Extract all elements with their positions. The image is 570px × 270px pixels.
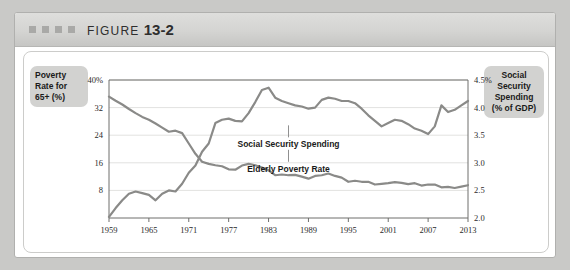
header-square-icon [42, 26, 49, 33]
secondary-y-axis-labels: 2.02.53.03.54.04.5% [474, 75, 492, 223]
x-tick-label: 2001 [380, 225, 397, 235]
y2-tick-label: 2.0 [474, 213, 485, 223]
x-tick-label: 1965 [140, 225, 157, 235]
x-tick-label: 1995 [340, 225, 357, 235]
figure-header: FIGURE 13-2 [15, 13, 555, 47]
y-tick-label: 32 [95, 103, 104, 113]
plot-area: 816243240% 2.02.53.03.54.04.5% 195919651… [24, 52, 550, 254]
y-tick-label: 8 [99, 185, 103, 195]
figure-number: 13-2 [144, 21, 174, 38]
y-tick-label: 16 [95, 158, 104, 168]
x-tick-label: 2013 [460, 225, 477, 235]
x-axis-ticks [109, 218, 468, 222]
x-tick-label: 1989 [300, 225, 317, 235]
chart-panel: Poverty Rate for 65+ (%) Social Security… [23, 51, 549, 253]
y2-tick-label: 2.5 [474, 185, 485, 195]
y-axis-labels: 816243240% [87, 75, 103, 195]
y-tick-label: 40% [87, 75, 103, 85]
header-square-icon [55, 26, 62, 33]
y-tick-label: 24 [95, 130, 104, 140]
x-tick-label: 1977 [220, 225, 237, 235]
figure-card: FIGURE 13-2 Poverty Rate for 65+ (%) Soc… [14, 12, 556, 258]
x-tick-label: 1983 [260, 225, 277, 235]
header-decoration-squares [29, 26, 75, 33]
figure-title: FIGURE 13-2 [87, 21, 174, 38]
chart-svg: 816243240% 2.02.53.03.54.04.5% 195919651… [24, 52, 550, 254]
series-annotations: Social Security SpendingElderly Poverty … [237, 125, 339, 173]
header-square-icon [29, 26, 36, 33]
y2-tick-label: 4.0 [474, 103, 485, 113]
header-square-icon [68, 26, 75, 33]
series-annotation: Social Security Spending [237, 139, 339, 149]
series-annotation: Elderly Poverty Rate [247, 164, 330, 174]
figure-word: FIGURE [87, 24, 140, 38]
x-axis-labels: 1959196519711977198319891995200120072013 [101, 225, 477, 235]
x-tick-label: 2007 [420, 225, 437, 235]
y2-tick-label: 3.5 [474, 130, 485, 140]
y2-tick-label: 4.5% [474, 75, 492, 85]
x-tick-label: 1959 [101, 225, 118, 235]
y2-tick-label: 3.0 [474, 158, 485, 168]
x-tick-label: 1971 [180, 225, 197, 235]
